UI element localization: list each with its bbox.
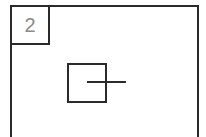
panel-number-label: 2 bbox=[10, 5, 50, 45]
inner-square bbox=[67, 63, 107, 103]
horizontal-line bbox=[87, 81, 126, 83]
